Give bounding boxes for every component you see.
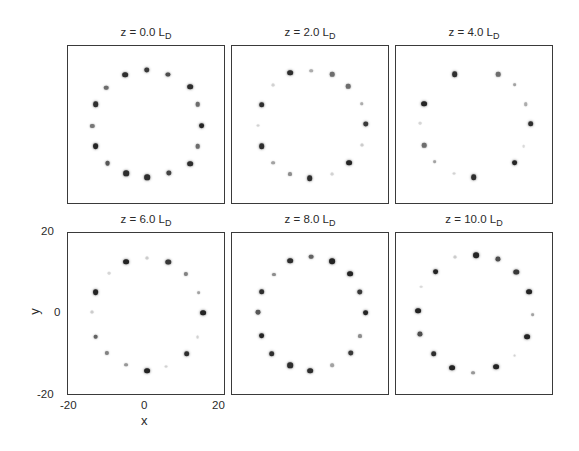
intensity-spot [360,144,363,147]
intensity-spot [91,311,94,314]
intensity-spot [473,252,479,258]
intensity-spot [449,365,455,371]
intensity-spot [420,285,423,288]
intensity-spot [471,174,477,179]
intensity-spot [347,271,353,277]
intensity-spot [123,171,129,176]
intensity-spot [145,256,148,259]
intensity-spot [259,289,265,294]
intensity-spot [187,84,193,89]
y-tick-top: 20 [41,225,54,237]
intensity-spot [272,273,276,277]
intensity-spot [259,333,265,339]
intensity-spot [329,258,335,264]
intensity-spot [307,368,313,373]
intensity-spot [93,143,99,149]
intensity-spot [93,334,98,339]
intensity-spot [330,173,333,176]
plot-panel [395,232,553,395]
intensity-spot [493,364,499,370]
panel-title: z = 10.0 LD [395,213,553,228]
intensity-spot [363,310,369,316]
intensity-spot [309,69,313,72]
intensity-spot [144,368,150,374]
panel-title: z = 2.0 LD [231,26,389,41]
intensity-spot [187,161,193,166]
intensity-spot [346,84,351,88]
intensity-spot [418,122,421,125]
intensity-spot [195,144,200,148]
intensity-spot [256,310,261,315]
intensity-spot [418,332,423,337]
intensity-spot [122,72,128,77]
intensity-spot [200,310,206,316]
plot-panel [231,232,389,395]
intensity-spot [104,86,109,90]
intensity-spot [471,371,475,375]
intensity-spot [93,290,99,296]
intensity-spot [363,122,368,127]
intensity-spot [513,83,517,87]
intensity-spot [288,172,292,176]
y-tick-zero: 0 [54,306,60,318]
intensity-spot [105,161,110,166]
intensity-spot [165,72,170,77]
x-tick-zero: 0 [141,399,147,411]
intensity-spot [144,174,150,179]
intensity-spot [422,101,428,107]
x-tick-right: 20 [212,399,225,411]
intensity-spot [272,84,275,87]
intensity-spot [90,123,94,127]
panel-title: z = 0.0 LD [67,26,225,41]
intensity-spot [496,72,501,76]
intensity-spot [287,363,293,368]
intensity-spot [287,70,293,75]
intensity-spot [108,272,111,275]
intensity-spot [522,145,525,148]
intensity-spot [513,354,516,357]
intensity-spot [259,143,265,148]
intensity-spot [184,351,190,356]
intensity-spot [93,102,99,107]
plot-panel [67,45,225,204]
intensity-spot [307,176,313,181]
intensity-spot [358,334,362,338]
intensity-spot [514,269,519,274]
x-axis-label: x [141,413,148,428]
intensity-spot [330,364,334,368]
intensity-spot [257,124,260,127]
intensity-spot [348,350,353,355]
intensity-spot [271,161,275,165]
intensity-spot [123,259,129,265]
intensity-spot [431,351,437,356]
intensity-spot [452,172,455,175]
intensity-spot [105,351,109,355]
intensity-spot [524,103,528,106]
panel-title: z = 6.0 LD [67,213,225,228]
intensity-spot [184,272,188,276]
panel-title: z = 4.0 LD [395,26,553,41]
intensity-spot [357,289,362,294]
intensity-spot [453,256,456,259]
intensity-spot [528,121,534,126]
intensity-spot [259,102,265,107]
y-axis-label: y [27,308,42,315]
intensity-spot [330,72,335,76]
intensity-spot [196,336,199,339]
intensity-spot [496,256,501,261]
plot-panel [395,45,553,204]
intensity-spot [346,160,352,166]
intensity-spot [524,334,530,340]
intensity-spot [269,351,275,356]
intensity-spot [165,365,168,368]
intensity-spot [422,143,427,147]
intensity-spot [199,123,205,129]
intensity-spot [415,308,421,314]
intensity-spot [166,171,171,176]
plot-panel [67,232,225,395]
plot-panel [231,45,389,204]
intensity-spot [531,313,535,317]
intensity-spot [526,289,532,295]
intensity-spot [287,258,293,263]
intensity-spot [433,269,439,275]
